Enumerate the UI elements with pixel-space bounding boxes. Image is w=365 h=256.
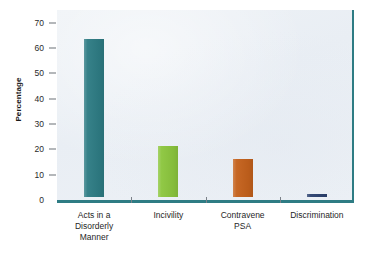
y-tick-mark-40 [49,98,56,99]
x-axis-label-3: Discrimination [280,210,354,221]
x-axis-label-2: ContravenePSA [206,210,280,232]
y-tick-mark-30 [49,124,56,125]
y-tick-label-40: 40 [22,94,44,104]
x-tick-mark-2 [206,197,207,203]
bar-1 [158,146,178,197]
bar-sheen [233,159,253,197]
y-tick-label-0: 0 [22,195,44,205]
bar-sheen [84,39,104,197]
x-axis-label-1: Incivility [131,210,205,221]
y-tick-label-10: 10 [22,170,44,180]
y-tick-mark-20 [49,149,56,150]
x-tick-mark-3 [280,197,281,203]
bar-0 [84,39,104,197]
y-tick-mark-10 [49,174,56,175]
x-axis-label-line: Acts in a [57,210,131,221]
y-tick-mark-70 [49,22,56,23]
x-axis-label-line: Incivility [131,210,205,221]
y-tick-mark-60 [49,48,56,49]
y-tick-label-30: 30 [22,119,44,129]
x-axis-label-line: Disorderly [57,221,131,232]
x-axis-label-line: Discrimination [280,210,354,221]
bar-chart: Percentage 010203040506070 Acts in aDiso… [0,0,365,256]
x-axis-label-0: Acts in aDisorderlyManner [57,210,131,243]
bars-layer [57,10,350,200]
y-tick-label-60: 60 [22,43,44,53]
y-tick-label-50: 50 [22,68,44,78]
bar-sheen [307,194,327,197]
bar-sheen [158,146,178,197]
y-tick-mark-50 [49,73,56,74]
x-tick-mark-1 [131,197,132,203]
plot-area [57,10,354,203]
x-axis-label-line: Contravene [206,210,280,221]
bar-2 [233,159,253,197]
y-tick-label-70: 70 [22,18,44,28]
x-axis-label-line: PSA [206,221,280,232]
x-axis-label-line: Manner [57,232,131,243]
y-tick-label-20: 20 [22,144,44,154]
bar-3 [307,194,327,197]
